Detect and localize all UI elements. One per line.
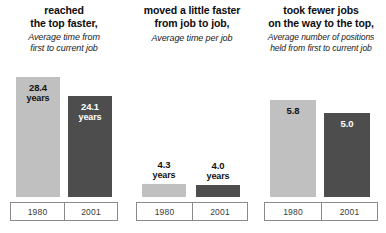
bar-value-number: 4.0 [212, 160, 225, 171]
bar-value-label: 5.8 [270, 105, 316, 116]
bar-value-number: 5.8 [287, 105, 300, 116]
bar-value-label: 4.0 years [196, 160, 240, 182]
axis-label-2001: 2001 [321, 203, 377, 220]
bar-value-number: 4.3 [158, 159, 171, 170]
axis-label-2001: 2001 [64, 203, 117, 220]
plot-area: 4.3 years 4.0 years 1980 2001 [128, 0, 256, 233]
bar-1980: 4.3 years [142, 184, 186, 197]
bar-value-label: 24.1 years [68, 101, 112, 123]
axis-label-box: 1980 2001 [136, 202, 248, 221]
bar-value-unit: years [196, 171, 240, 182]
axis-label-2001: 2001 [192, 203, 247, 220]
bar-value-unit: years [16, 93, 60, 104]
axis-label-box: 1980 2001 [264, 202, 378, 221]
axis-label-1980: 1980 [265, 203, 321, 220]
chart-panel-moved-faster-job-to-job: moved a little faster from job to job, A… [128, 0, 256, 233]
infographic-chart: reached the top faster, Average time fro… [0, 0, 386, 233]
bar-2001: 5.0 [324, 113, 370, 197]
chart-panel-reached-top-faster: reached the top faster, Average time fro… [0, 0, 128, 233]
chart-panel-took-fewer-jobs: took fewer jobs on the way to the top, A… [256, 0, 386, 233]
bar-value-number: 24.1 [81, 101, 99, 112]
bar-value-unit: years [142, 170, 186, 181]
plot-area: 28.4 years 24.1 years 1980 2001 [0, 0, 128, 233]
bar-value-label: 28.4 years [16, 82, 60, 104]
bar-value-unit: years [68, 112, 112, 123]
bar-1980: 28.4 years [16, 77, 60, 197]
bar-2001: 24.1 years [68, 96, 112, 197]
bar-value-number: 28.4 [29, 82, 47, 93]
bar-1980: 5.8 [270, 100, 316, 197]
bar-value-number: 5.0 [341, 118, 354, 129]
bar-value-label: 4.3 years [142, 159, 186, 181]
bar-value-label: 5.0 [324, 118, 370, 129]
axis-label-1980: 1980 [137, 203, 192, 220]
plot-area: 5.8 5.0 1980 2001 [256, 0, 386, 233]
bar-2001: 4.0 years [196, 185, 240, 197]
axis-label-1980: 1980 [11, 203, 64, 220]
axis-label-box: 1980 2001 [10, 202, 118, 221]
